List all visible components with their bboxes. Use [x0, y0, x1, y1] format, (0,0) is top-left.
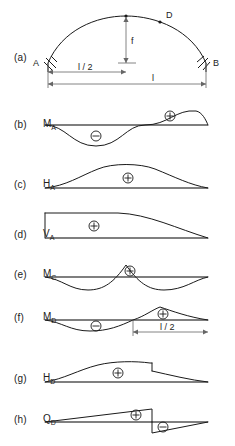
- panel-tag-f: (f): [14, 312, 24, 323]
- rise-arrow-top: [123, 17, 128, 22]
- quantity-qd-sub: D: [51, 419, 56, 426]
- panel-h-shear-d: (h) QD: [0, 400, 235, 446]
- quantity-label-qd: QD: [43, 413, 56, 426]
- panel-b-svg: [0, 98, 235, 150]
- influence-curve-ma: [45, 111, 208, 146]
- sign-minus-f: [91, 321, 101, 331]
- quantity-label-hd: HD: [43, 372, 55, 385]
- influence-curve-hd-left: [45, 362, 152, 382]
- sign-plus-f: [158, 309, 168, 319]
- panel-d-reaction-a: (d) VA: [0, 202, 235, 250]
- influence-curve-ha: [45, 165, 208, 189]
- rise-label: f: [131, 36, 134, 46]
- panel-d-svg: [0, 202, 235, 250]
- point-b-label: B: [213, 58, 219, 68]
- quantity-md-sub: D: [51, 317, 56, 324]
- sign-plus-c: [123, 173, 133, 183]
- quantity-label-ma: MA: [43, 118, 56, 131]
- point-d-marker: [158, 20, 161, 23]
- quantity-va-sub: A: [50, 234, 55, 241]
- panel-c-svg: [0, 152, 235, 200]
- half-span-label-f: l / 2: [160, 322, 175, 332]
- half-span-label: l / 2: [78, 62, 93, 72]
- point-a-label: A: [33, 58, 39, 68]
- rise-arrow-bottom: [123, 58, 128, 63]
- panel-tag-e: (e): [14, 269, 27, 280]
- sign-plus-b: [165, 111, 175, 121]
- quantity-label-md: MD: [43, 311, 56, 324]
- quantity-va: V: [43, 228, 50, 239]
- panel-tag-h: (h): [14, 414, 27, 425]
- influence-curve-hd-right: [152, 371, 208, 382]
- panel-e-moment-c: (e) MC: [0, 252, 235, 300]
- panel-tag-b: (b): [14, 119, 27, 130]
- quantity-label-va: VA: [43, 228, 54, 241]
- panel-g-thrust-d: (g) HD: [0, 354, 235, 398]
- panel-f-moment-d: l / 2 (f) MD: [0, 300, 235, 352]
- full-span-label: l: [152, 73, 154, 83]
- panel-a-arch-geometry: l / 2 l f A B D (a): [0, 0, 235, 95]
- quantity-qd: Q: [43, 413, 51, 424]
- panel-e-svg: [0, 252, 235, 300]
- quantity-hd-sub: D: [50, 378, 55, 385]
- half-span-arrow-left-f: [133, 329, 138, 334]
- quantity-ma-sub: A: [51, 124, 56, 131]
- half-span-arrow-right-f: [203, 329, 208, 334]
- point-d-label: D: [166, 10, 173, 20]
- sign-plus-h: [131, 410, 141, 420]
- panel-tag-a: (a): [14, 52, 27, 63]
- quantity-mc-sub: C: [51, 274, 56, 281]
- sign-plus-g: [113, 368, 123, 378]
- sign-plus-e: [125, 266, 135, 276]
- panel-f-svg: l / 2: [0, 300, 235, 352]
- panel-b-moment-a: (b) MA: [0, 98, 235, 150]
- influence-line-figure: l / 2 l f A B D (a) (b) MA: [0, 0, 235, 446]
- panel-h-svg: [0, 400, 235, 446]
- full-span-arrow-left: [48, 81, 53, 86]
- half-span-arrow-left: [48, 69, 53, 74]
- panel-tag-c: (c): [14, 179, 26, 190]
- panel-g-svg: [0, 354, 235, 398]
- quantity-label-ha: HA: [43, 178, 55, 191]
- panel-c-thrust-a: (c) HA: [0, 152, 235, 200]
- panel-a-svg: l / 2 l f A B D: [0, 0, 235, 95]
- full-span-arrow-right: [201, 81, 206, 86]
- quantity-label-mc: MC: [43, 268, 56, 281]
- quantity-ha-sub: A: [50, 184, 55, 191]
- panel-tag-d: (d): [14, 229, 27, 240]
- half-span-arrow-right: [121, 69, 126, 74]
- influence-curve-va: [45, 213, 208, 238]
- arch-curve: [48, 16, 206, 63]
- panel-tag-g: (g): [14, 373, 27, 384]
- sign-plus-d: [89, 221, 99, 231]
- influence-curve-md: [45, 307, 208, 331]
- sign-minus-b: [91, 131, 101, 141]
